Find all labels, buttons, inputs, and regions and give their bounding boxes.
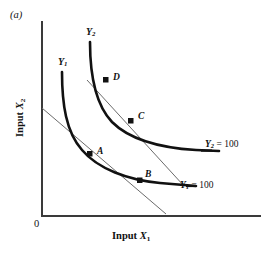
data-point-a — [87, 151, 93, 157]
curve-label-y2: Y2 — [86, 27, 96, 38]
isoquant-label-y2: Y2 = 100 — [205, 140, 238, 150]
isoquant-curve-y1 — [62, 72, 196, 186]
origin-label: 0 — [34, 219, 39, 230]
x-axis-label-var: X — [140, 230, 147, 241]
isocost-line-upper — [87, 80, 184, 186]
x-axis-label-sub: 1 — [147, 235, 151, 243]
x-axis-label: Input X1 — [112, 231, 150, 243]
point-label-c: C — [138, 112, 144, 122]
y-axis-label-sub: 2 — [19, 99, 27, 103]
curve-label-y2-sub: 2 — [92, 30, 95, 37]
isoquant-label-y1-eq: = 100 — [189, 180, 213, 190]
curve-label-y1: Y1 — [58, 57, 68, 68]
panel-letter: (a) — [10, 10, 22, 21]
isoquant-diagram — [0, 0, 270, 253]
point-label-b: B — [145, 170, 151, 180]
y-axis-label-prefix: Input — [14, 109, 25, 137]
y-axis-label-var: X — [14, 102, 25, 109]
data-point-c — [128, 118, 134, 124]
isoquant-label-y2-eq: = 100 — [214, 139, 238, 149]
curve-label-y1-sub: 1 — [64, 60, 67, 67]
isoquant-curve-y2 — [90, 42, 219, 151]
isoquant-label-y1: Y1 = 100 — [180, 181, 213, 191]
y-axis-label: Input X2 — [15, 83, 27, 153]
x-axis-label-prefix: Input — [112, 230, 140, 241]
isocost-line-lower — [42, 108, 166, 214]
data-point-b — [137, 178, 143, 184]
data-point-d — [103, 77, 109, 83]
figure-container: (a) 0 Input X2 Input X1 Y2 Y1 D C A B Y2… — [0, 0, 270, 253]
point-label-d: D — [113, 73, 120, 83]
point-label-a: A — [97, 147, 103, 157]
